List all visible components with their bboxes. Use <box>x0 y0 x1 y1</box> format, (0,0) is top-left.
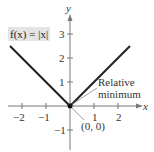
y-tick-label: 3 <box>59 29 65 40</box>
y-tick-label: −1 <box>54 125 66 136</box>
y-axis-label: y <box>66 3 71 14</box>
x-axis-arrow-icon <box>136 104 143 109</box>
relative-min-leader <box>71 88 97 105</box>
function-label: f(x) = |x| <box>8 27 50 41</box>
relative-label-line1: Relative <box>98 77 135 88</box>
x-tick-label: −2 <box>13 112 25 123</box>
y-tick-label: 2 <box>59 53 65 64</box>
relative-label-line2: minimum <box>98 89 141 100</box>
y-tick-label: 1 <box>59 77 65 88</box>
origin-leader <box>71 107 84 120</box>
x-axis-label: x <box>143 101 148 112</box>
x-tick-label: 2 <box>116 112 122 123</box>
x-tick-label: −1 <box>38 112 50 123</box>
y-axis-arrow-icon <box>68 14 73 21</box>
x-tick-label: 1 <box>92 112 98 123</box>
minimum-point <box>68 104 73 109</box>
